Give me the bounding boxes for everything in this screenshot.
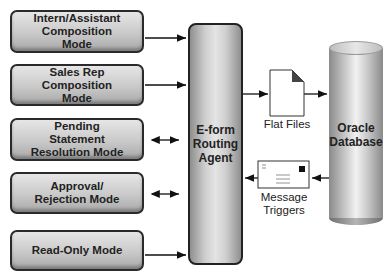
- mode-sales-rep-composition: Sales Rep Composition Mode: [10, 64, 144, 106]
- message-triggers-label: Message Triggers: [250, 191, 318, 217]
- flat-files-label: Flat Files: [255, 118, 319, 131]
- database-label: Oracle Database: [329, 121, 383, 149]
- mode-read-only: Read-Only Mode: [10, 230, 144, 271]
- mode-approval-rejection: Approval/ Rejection Mode: [10, 172, 144, 214]
- mode-intern-assistant-composition: Intern/Assistant Composition Mode: [10, 10, 144, 53]
- envelope-icon: [258, 161, 309, 188]
- document-icon: [270, 70, 304, 116]
- eform-routing-agent: E-form Routing Agent: [188, 23, 243, 265]
- oracle-database: Oracle Database: [329, 41, 383, 225]
- mode-pending-statement-resolution: Pending Statement Resolution Mode: [10, 118, 144, 161]
